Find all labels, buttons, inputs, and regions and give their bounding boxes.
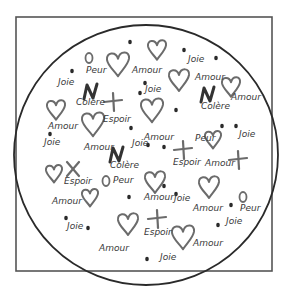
emotions-illustration: PeurAmourJoieJoieAmourJoieColèreColèreAm… [0,0,287,290]
emotion-word: Joie [130,138,149,148]
joie-dot-icon [234,124,238,129]
emotion-word: Peur [86,65,108,75]
joie-dot-icon [86,226,90,231]
emotion-word: Peur [240,203,262,213]
joie-dot-icon [162,145,166,150]
emotion-word: Espoir [144,227,173,237]
heart-icon [47,100,65,119]
heart-icon [107,53,129,77]
emotion-word: Joie [172,193,191,203]
emotion-word: Amour [143,192,175,202]
emotion-word: Amour [131,65,163,75]
joie-dot-icon [214,56,218,61]
joie-dot-icon [138,91,142,96]
peur-circle-icon [103,176,110,186]
plus-cross-icon [104,93,122,111]
heart-icon [148,40,166,59]
joie-dot-icon [174,108,178,113]
emotion-word: Amour [204,158,236,168]
joie-dot-icon [229,203,233,208]
emotion-word: Amour [192,203,224,213]
emotion-word: Colère [110,160,140,170]
emotion-words-group: PeurAmourJoieJoieAmourJoieColèreColèreAm… [42,54,262,262]
heart-icon [82,113,104,137]
joie-dot-icon [182,48,186,53]
heart-icon [145,171,165,193]
emotion-word: Joie [42,137,61,147]
emotion-word: Amour [83,142,115,152]
heart-icon [141,99,163,123]
emotion-word: Amour [51,196,83,206]
peur-circle-icon [240,192,247,202]
joie-dot-icon [220,124,224,129]
emotion-word: Amour [230,92,262,102]
emotion-word: Joie [186,54,205,64]
emotion-word: Joie [158,252,177,262]
joie-dot-icon [127,195,131,200]
emotion-word: Colère [76,97,106,107]
emotion-word: Amour [194,72,226,82]
joie-dot-icon [48,132,52,137]
emotion-word: Espoir [64,176,93,186]
heart-icon [172,226,194,250]
heart-icon [46,165,62,182]
emotion-word: Espoir [173,157,202,167]
joie-dot-icon [128,40,132,45]
emotions-circle-drawing: PeurAmourJoieJoieAmourJoieColèreColèreAm… [0,0,287,290]
peur-circle-icon [86,53,93,63]
joie-dot-icon [216,223,220,228]
emotion-word: Amour [47,121,79,131]
emotion-word: Joie [56,77,75,87]
heart-icon [169,69,189,91]
emotion-word: Amour [192,238,224,248]
joie-dot-icon [145,257,149,262]
joie-dot-icon [64,216,68,221]
emotion-word: Joie [237,129,256,139]
joie-dot-icon [129,126,133,131]
joie-dot-icon [162,184,166,189]
emotion-word: Amour [98,243,130,253]
emotion-word: Joie [143,84,162,94]
x-cross-icon [67,162,79,176]
plus-cross-icon [148,210,166,228]
heart-icon [199,176,219,198]
colere-zigzag-icon [201,87,214,102]
emotion-word: Colère [201,101,231,111]
emotion-word: Peur [113,175,135,185]
emotion-word: Joie [224,216,243,226]
heart-icon [82,189,98,206]
joie-dot-icon [70,69,74,74]
emotion-word: Joie [65,221,84,231]
heart-icon [118,213,138,235]
emotion-word: Peur [195,133,217,143]
emotion-word: Espoir [103,114,132,124]
